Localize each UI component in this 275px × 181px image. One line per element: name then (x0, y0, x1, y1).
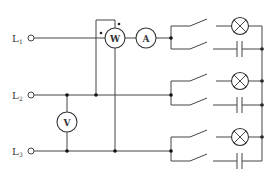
junction-dot (65, 93, 69, 97)
circuit-diagram: L 1 L 2 L 3 V W (0, 0, 275, 181)
switch-lamp (190, 130, 207, 137)
terminal-l3-subscript: 3 (19, 151, 23, 158)
switch-capacitor (190, 98, 207, 105)
junction-dot (169, 93, 173, 97)
wattmeter-label: W (109, 34, 121, 44)
terminal-l3: L 3 (12, 146, 34, 158)
terminal-l1: L 1 (12, 33, 34, 45)
terminal-l2: L 2 (12, 90, 34, 102)
terminal-l1-circle (28, 35, 34, 41)
switch-lamp (190, 74, 207, 81)
junction-dot (65, 149, 69, 153)
junction-dot (169, 149, 173, 153)
switch-capacitor (190, 154, 207, 161)
ammeter-label: A (142, 34, 151, 44)
junction-dot (94, 93, 98, 97)
switch-lamp (190, 19, 207, 26)
terminal-l1-label: L (12, 33, 19, 44)
voltmeter-label: V (63, 118, 72, 128)
wattmeter-polarity-dot (100, 32, 103, 35)
wattmeter: W (100, 23, 125, 48)
terminal-l1-subscript: 1 (19, 38, 23, 45)
wattmeter-polarity-dot (118, 23, 121, 26)
terminal-l2-circle (28, 92, 34, 98)
terminal-l2-subscript: 2 (19, 95, 23, 102)
junction-dot (169, 36, 173, 40)
voltmeter-branch: V (57, 95, 77, 151)
terminal-l2-label: L (12, 90, 19, 101)
terminal-l3-circle (28, 148, 34, 154)
ammeter: A (136, 28, 156, 48)
terminal-l3-label: L (12, 146, 19, 157)
junction-dot (113, 149, 117, 153)
switch-capacitor (190, 42, 207, 49)
